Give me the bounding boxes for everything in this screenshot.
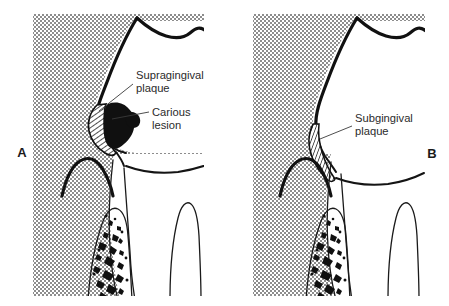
- panel-b: Subgingival plaque B: [253, 14, 437, 300]
- label-supragingival-plaque-line2: plaque: [136, 82, 170, 94]
- panel-letter-a: A: [17, 145, 27, 160]
- label-subgingival-plaque-line1: Subgingival: [355, 112, 413, 124]
- tooth-a-neighbor-fill: [196, 22, 215, 52]
- label-carious-lesion-line2: lesion: [152, 119, 181, 131]
- dental-illustration-svg: Supragingival plaque Carious lesion A: [0, 0, 449, 306]
- panel-letter-b: B: [427, 146, 436, 161]
- label-carious-lesion-line1: Carious: [152, 106, 191, 118]
- panel-a: Supragingival plaque Carious lesion A: [17, 14, 215, 300]
- label-supragingival-plaque-line1: Supragingival: [136, 69, 204, 81]
- label-subgingival-plaque-line2: plaque: [355, 125, 389, 137]
- figure-root: Supragingival plaque Carious lesion A: [0, 0, 449, 306]
